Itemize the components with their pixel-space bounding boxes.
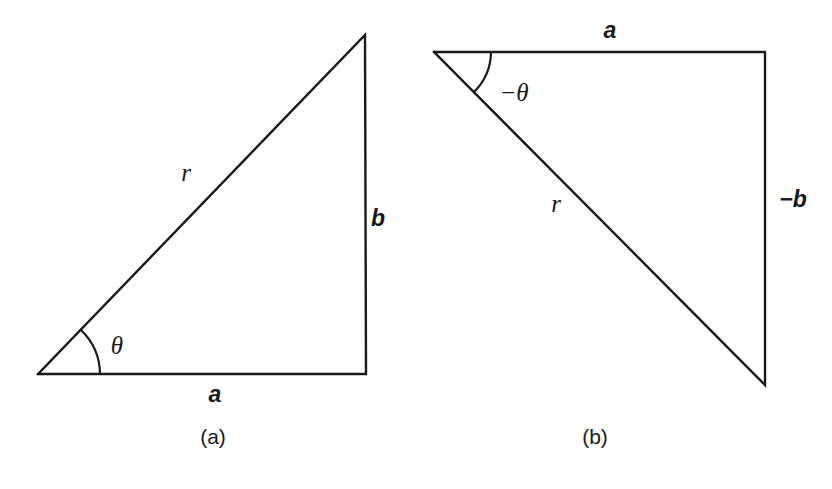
label-negative-theta-panel-b: −θ bbox=[499, 80, 528, 105]
label-r-panel-a: r bbox=[181, 160, 191, 185]
caption-panel-a: (a) bbox=[200, 426, 226, 447]
figure-container: r b a θ (a) a −b r −θ (b) bbox=[0, 0, 832, 489]
label-negative-b-panel-b: −b bbox=[779, 188, 806, 211]
label-theta-panel-a: θ bbox=[111, 333, 123, 358]
caption-panel-b: (b) bbox=[582, 426, 608, 447]
angle-arc-theta bbox=[81, 330, 100, 374]
label-b-panel-a: b bbox=[371, 207, 385, 230]
triangle-a-outline bbox=[38, 35, 366, 374]
triangle-b-outline bbox=[434, 52, 765, 385]
label-a-panel-a: a bbox=[209, 383, 222, 406]
figure-canvas bbox=[0, 0, 832, 489]
label-a-panel-b: a bbox=[604, 19, 617, 42]
angle-arc-negative-theta bbox=[474, 52, 491, 92]
label-r-panel-b: r bbox=[551, 191, 561, 216]
